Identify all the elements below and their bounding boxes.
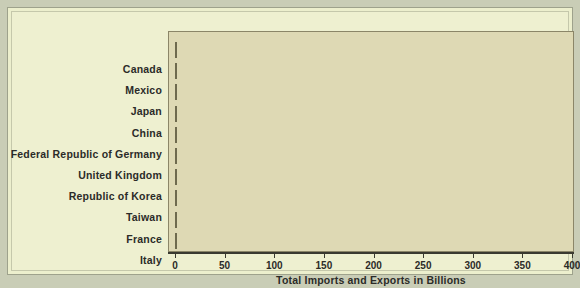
value-axis-line	[168, 252, 574, 254]
flag-south-korea-icon	[176, 170, 177, 184]
category-axis-labels: CanadaMexicoJapanChinaFederal Republic o…	[20, 31, 166, 252]
flag-united-kingdom-icon	[176, 149, 177, 163]
axis-tick-label: 0	[172, 260, 178, 271]
bar-republic-of-korea	[175, 169, 233, 185]
bar-body	[175, 169, 177, 185]
category-label-taiwan: Taiwan	[126, 210, 162, 224]
bar-body	[175, 84, 177, 100]
category-label-republic-of-korea: Republic of Korea	[69, 189, 162, 203]
axis-tick	[522, 252, 523, 258]
flag-japan-icon	[176, 85, 177, 99]
chart-card: CanadaMexicoJapanChinaFederal Republic o…	[7, 7, 573, 275]
bar-taiwan	[175, 190, 227, 206]
category-label-china: China	[132, 126, 162, 140]
flag-france-icon	[176, 213, 177, 227]
flag-stripe	[176, 64, 177, 78]
bar-mexico	[175, 63, 402, 79]
axis-tick	[274, 252, 275, 258]
bar-body	[175, 233, 177, 249]
bar-france	[175, 212, 225, 228]
chart-card-inner: CanadaMexicoJapanChinaFederal Republic o…	[11, 11, 569, 271]
axis-tick-label: 100	[266, 260, 283, 271]
axis-tick	[324, 252, 325, 258]
bar-body	[175, 63, 177, 79]
axis-tick-label: 200	[365, 260, 382, 271]
bar-body	[175, 190, 177, 206]
axis-tick	[473, 252, 474, 258]
axis-tick	[572, 252, 573, 258]
flag-germany-icon	[176, 128, 177, 142]
category-label-federal-republic-of-germany: Federal Republic of Germany	[11, 147, 162, 161]
flag-italy-icon	[176, 234, 177, 248]
bar-body	[175, 148, 177, 164]
category-label-canada: Canada	[123, 62, 162, 76]
axis-tick-label: 300	[464, 260, 481, 271]
category-label-united-kingdom: United Kingdom	[78, 168, 162, 182]
bar-body	[175, 106, 177, 122]
axis-tick-label: 250	[415, 260, 432, 271]
bar-body	[175, 212, 177, 228]
axis-tick-label: 50	[219, 260, 230, 271]
flag-canada-icon	[176, 43, 177, 57]
flag-stripe	[176, 234, 177, 248]
bar-canada	[175, 42, 548, 58]
flag-taiwan-icon	[176, 191, 177, 205]
bar-japan	[175, 84, 355, 100]
axis-tick-label: 400	[564, 260, 580, 271]
flag-mexico-icon	[176, 64, 177, 78]
axis-tick	[225, 252, 226, 258]
bar-china	[175, 106, 294, 122]
category-label-italy: Italy	[140, 253, 162, 267]
flag-stripe	[176, 128, 177, 133]
bar-body	[175, 127, 177, 143]
category-label-japan: Japan	[131, 104, 162, 118]
flag-stripe	[176, 132, 177, 137]
flag-stripe	[176, 213, 177, 227]
bar-body	[175, 42, 177, 58]
flag-china-icon	[176, 107, 177, 121]
flag-stripe	[176, 137, 177, 142]
flag-stripe	[176, 43, 177, 57]
axis-tick	[374, 252, 375, 258]
bar-federal-republic-of-germany	[175, 127, 262, 143]
category-label-mexico: Mexico	[125, 83, 162, 97]
axis-tick	[175, 252, 176, 258]
value-axis-title: Total Imports and Exports in Billions	[168, 274, 574, 286]
axis-tick-label: 150	[316, 260, 333, 271]
axis-tick	[423, 252, 424, 258]
category-label-france: France	[126, 232, 162, 246]
chart-screenshot: CanadaMexicoJapanChinaFederal Republic o…	[0, 0, 580, 288]
axis-tick-label: 350	[514, 260, 531, 271]
bar-united-kingdom	[175, 148, 255, 164]
bar-italy	[175, 233, 208, 249]
